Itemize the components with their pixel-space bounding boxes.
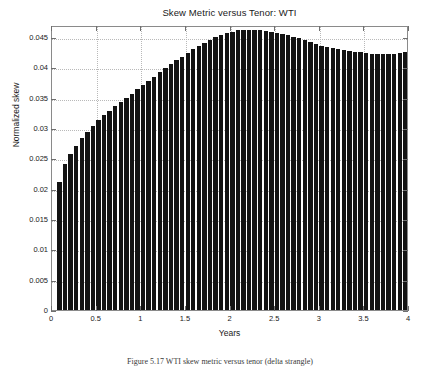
- x-tick-mark: [319, 306, 320, 311]
- bar: [197, 46, 201, 310]
- bar: [225, 33, 229, 310]
- y-tick-mark: [403, 129, 408, 130]
- bar: [280, 34, 284, 310]
- bar: [386, 54, 390, 310]
- y-tick-mark: [51, 99, 56, 100]
- bar: [152, 77, 156, 310]
- y-tick-mark: [403, 68, 408, 69]
- bar: [375, 54, 379, 310]
- y-tick-label: 0.02: [33, 185, 48, 194]
- bar: [174, 60, 178, 310]
- x-tick-label: 4: [388, 314, 426, 323]
- bar: [353, 52, 357, 310]
- chart-title: Skew Metric versus Tenor: WTI: [51, 7, 408, 18]
- x-tick-mark: [408, 306, 409, 311]
- bar: [208, 40, 212, 310]
- bar: [130, 94, 134, 310]
- bar: [264, 31, 268, 310]
- y-tick-label: 0.015: [29, 215, 48, 224]
- x-tick-label: 0: [31, 314, 71, 323]
- x-tick-label: 1: [120, 314, 160, 323]
- x-tick-mark: [185, 26, 186, 31]
- bar: [358, 52, 362, 310]
- y-tick-mark: [51, 281, 56, 282]
- bar: [236, 30, 240, 310]
- x-tick-label: 2: [210, 314, 250, 323]
- bar: [146, 81, 150, 310]
- y-tick-mark: [403, 311, 408, 312]
- bar: [381, 54, 385, 310]
- x-tick-mark: [319, 26, 320, 31]
- bar: [398, 53, 402, 310]
- y-tick-mark: [51, 220, 56, 221]
- x-tick-label: 1.5: [165, 314, 205, 323]
- x-tick-mark: [274, 26, 275, 31]
- bar: [202, 43, 206, 310]
- bar: [364, 53, 368, 310]
- x-tick-mark: [408, 26, 409, 31]
- bar: [102, 115, 106, 310]
- bar: [314, 44, 318, 310]
- x-tick-mark: [230, 26, 231, 31]
- bar: [163, 68, 167, 310]
- x-tick-mark: [96, 26, 97, 31]
- bar: [308, 42, 312, 310]
- bar-series: [52, 27, 407, 310]
- bar: [347, 51, 351, 310]
- bar: [113, 106, 117, 310]
- plot-area: [51, 26, 408, 311]
- x-tick-label: 3: [299, 314, 339, 323]
- y-tick-label: 0.025: [29, 154, 48, 163]
- bar: [241, 30, 245, 310]
- bar: [331, 48, 335, 310]
- y-tick-label: 0.04: [33, 63, 48, 72]
- bar: [119, 102, 123, 310]
- x-tick-mark: [96, 306, 97, 311]
- x-tick-label: 3.5: [343, 314, 383, 323]
- y-tick-mark: [51, 159, 56, 160]
- bar: [180, 57, 184, 310]
- figure-caption: Figure 5.17 WTI skew metric versus tenor…: [60, 357, 380, 366]
- bar: [91, 126, 95, 310]
- bar: [85, 132, 89, 310]
- y-tick-mark: [403, 220, 408, 221]
- y-tick-label: 0.03: [33, 124, 48, 133]
- bar: [370, 54, 374, 311]
- bar: [80, 138, 84, 310]
- y-tick-label: 0.005: [29, 276, 48, 285]
- y-tick-mark: [403, 250, 408, 251]
- x-tick-mark: [185, 306, 186, 311]
- bar: [303, 40, 307, 310]
- bar: [213, 37, 217, 310]
- bar: [275, 33, 279, 310]
- bar: [107, 111, 111, 311]
- y-tick-mark: [403, 99, 408, 100]
- x-tick-mark: [140, 306, 141, 311]
- bar: [319, 46, 323, 310]
- y-tick-mark: [51, 190, 56, 191]
- bar: [286, 35, 290, 310]
- bar: [325, 47, 329, 310]
- x-tick-mark: [140, 26, 141, 31]
- x-tick-label: 0.5: [76, 314, 116, 323]
- bar: [141, 85, 145, 310]
- x-tick-label: 2.5: [254, 314, 294, 323]
- y-tick-mark: [51, 38, 56, 39]
- y-tick-mark: [403, 159, 408, 160]
- bar: [342, 50, 346, 310]
- bar: [291, 37, 295, 310]
- y-tick-mark: [51, 68, 56, 69]
- y-tick-label: 0.035: [29, 94, 48, 103]
- bar: [63, 164, 67, 310]
- bar: [135, 89, 139, 310]
- bar: [297, 38, 301, 310]
- bar: [68, 154, 72, 310]
- y-tick-mark: [51, 250, 56, 251]
- y-tick-label: 0.045: [29, 33, 48, 42]
- y-tick-mark: [51, 129, 56, 130]
- y-tick-mark: [403, 281, 408, 282]
- bar: [258, 30, 262, 310]
- bar: [57, 182, 61, 310]
- y-tick-label: 0.01: [33, 245, 48, 254]
